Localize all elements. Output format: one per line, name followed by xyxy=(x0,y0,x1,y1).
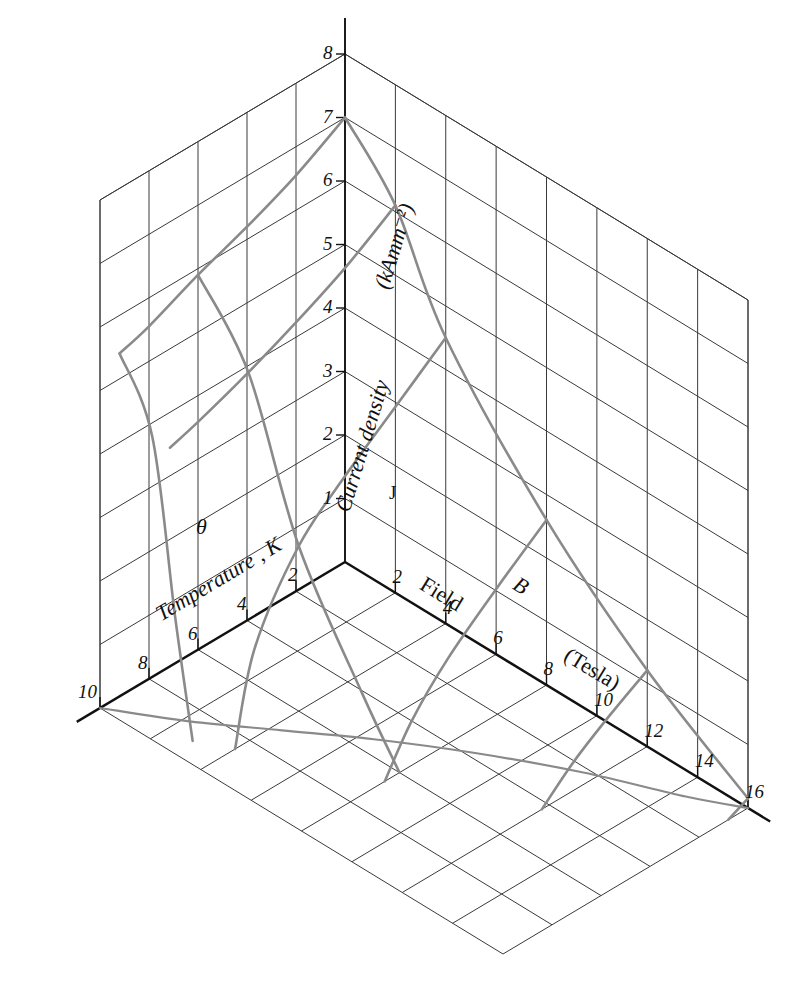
current-density-tick-label: 4 xyxy=(323,297,333,316)
floor-gridline-const-temp xyxy=(100,708,503,954)
field-tick-label: 14 xyxy=(695,751,714,770)
floor-gridline-const-field xyxy=(201,624,446,770)
current-density-tick-label: 7 xyxy=(323,107,333,126)
current-density-tick-label: 5 xyxy=(323,234,333,253)
floor-gridline-const-temp xyxy=(149,679,552,925)
temperature-tick-label: 4 xyxy=(237,594,247,613)
floor-gridline-const-field xyxy=(251,654,496,800)
surface-mesh-line-constant-field xyxy=(385,520,547,781)
right-wall-grid xyxy=(345,54,748,808)
left-wall-gridline-horizontal xyxy=(100,181,345,327)
temperature-tick-label: 8 xyxy=(138,653,148,672)
floor-gridline-const-field xyxy=(352,716,597,862)
floor-gridline-const-field xyxy=(402,747,647,893)
floor-grid xyxy=(100,562,748,954)
temperature-tick-label: 6 xyxy=(188,624,198,643)
field-axis-line xyxy=(345,562,770,822)
current-density-axis-symbol: J xyxy=(389,483,396,502)
floor-gridline-const-field xyxy=(503,808,748,954)
current-density-tick-label: 8 xyxy=(323,43,333,62)
figure-canvas: 12345678246810246810121416Temperature , … xyxy=(0,0,804,993)
surface-mesh-line-constant-field xyxy=(120,118,345,354)
field-tick-label: 6 xyxy=(493,628,503,647)
field-tick-label: 16 xyxy=(745,782,764,801)
floor-gridline-const-field xyxy=(453,777,698,923)
temperature-axis-symbol: θ xyxy=(196,516,207,538)
current-density-tick-label: 2 xyxy=(323,424,333,443)
left-wall-gridline-horizontal xyxy=(100,372,345,518)
temperature-tick-label: 10 xyxy=(78,682,97,701)
floor-gridline-const-field xyxy=(150,593,395,739)
left-wall-gridline-horizontal xyxy=(100,308,345,454)
left-wall-grid xyxy=(100,54,345,708)
surface-mesh-line-constant-temperature xyxy=(198,275,400,773)
left-wall-gridline-horizontal xyxy=(100,435,345,581)
temperature-tick-label: 2 xyxy=(288,565,298,584)
field-tick-label: 8 xyxy=(544,659,554,678)
surface-plot-svg xyxy=(0,0,804,993)
left-wall-gridline-horizontal xyxy=(100,118,345,264)
current-density-tick-label: 3 xyxy=(323,361,333,380)
current-density-tick-label: 6 xyxy=(323,170,333,189)
field-tick-label: 12 xyxy=(644,721,663,740)
field-tick-label: 2 xyxy=(392,567,402,586)
surface-mesh xyxy=(100,118,748,820)
left-wall-top-edge xyxy=(100,54,345,200)
